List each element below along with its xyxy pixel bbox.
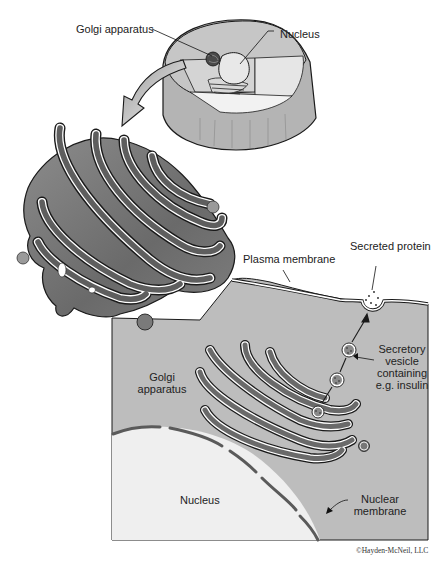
vesicle: [137, 314, 153, 330]
vesicle: [17, 252, 29, 264]
label-secreted-protein: Secreted protein: [350, 240, 431, 252]
label-secretory-vesicle: Secretory vesicle containing e.g. insuli…: [372, 343, 432, 391]
diagram-artwork: [0, 0, 444, 562]
label-golgi-apparatus-inner: Golgi apparatus: [136, 371, 188, 395]
label-nuclear-membrane: Nuclear membrane: [350, 493, 410, 517]
label-plasma-membrane: Plasma membrane: [243, 253, 335, 265]
golgi-detail-large: [24, 128, 235, 317]
label-golgi-apparatus-top: Golgi apparatus: [76, 23, 154, 35]
label-nucleus-inner: Nucleus: [180, 494, 220, 506]
copyright-credit: ©Hayden-McNeil, LLC: [356, 546, 428, 555]
vesicle: [207, 201, 219, 213]
golgi-diagram: Golgi apparatus Nucleus Plasma membrane …: [0, 0, 444, 562]
label-nucleus-top: Nucleus: [280, 28, 320, 40]
